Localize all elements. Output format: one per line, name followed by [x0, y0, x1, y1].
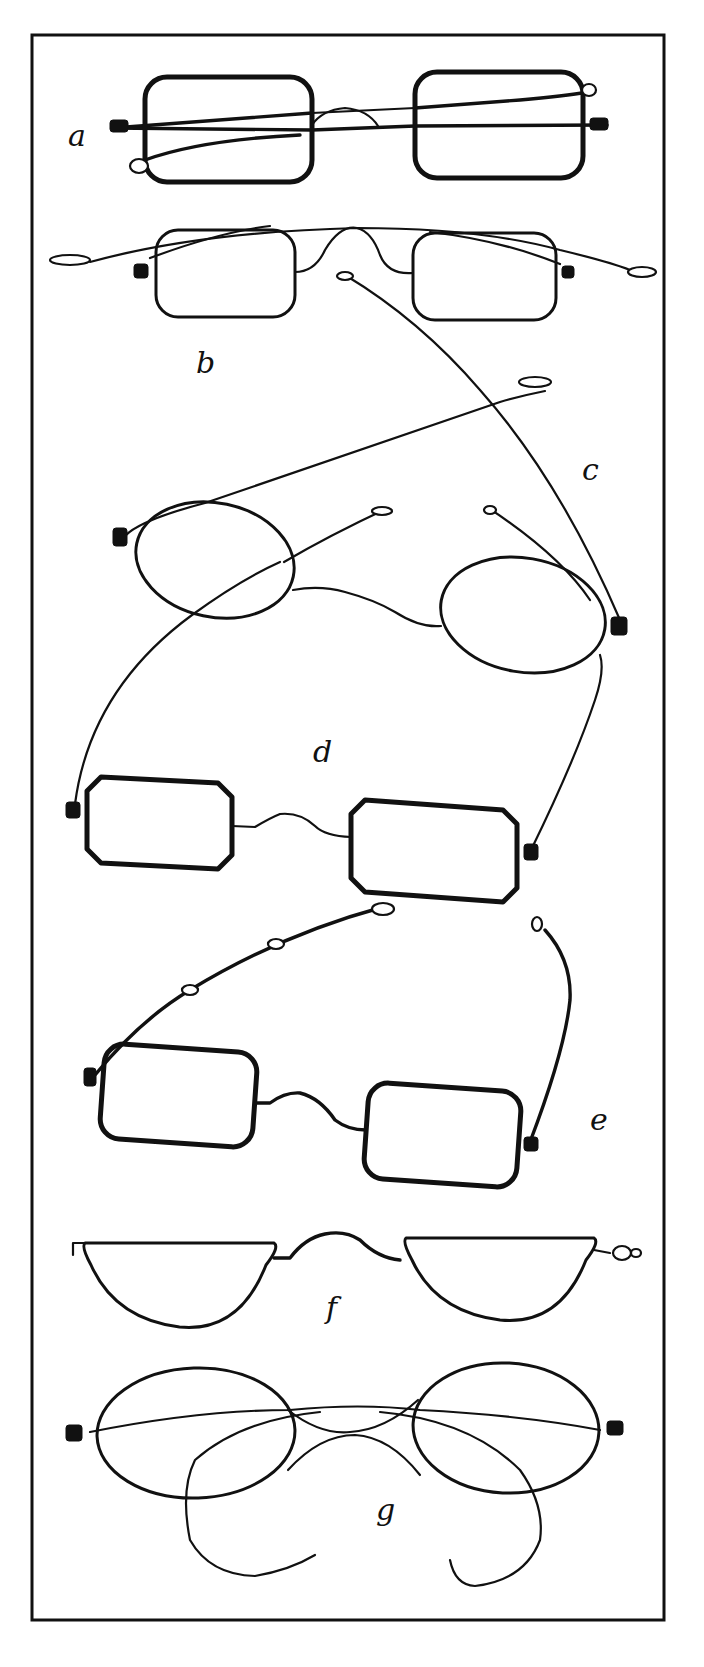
- temple-wire: [145, 135, 300, 160]
- left-lens-rim: [95, 1365, 297, 1502]
- spectacles-b: [50, 226, 656, 320]
- hinge: [134, 264, 148, 278]
- temple-loop: [337, 272, 353, 280]
- temple-wire: [288, 1400, 418, 1432]
- temple-wire: [531, 655, 602, 850]
- right-lens-rim: [405, 1238, 596, 1321]
- spectacles-plate: a b c d e f g: [0, 0, 704, 1667]
- spectacles-c: [113, 272, 627, 686]
- temple-wire: [293, 588, 441, 626]
- label-f: f: [324, 1290, 342, 1325]
- spectacles-e: [84, 903, 570, 1188]
- temple-wire: [125, 391, 545, 536]
- temple-wire: [380, 1412, 541, 1586]
- hinge: [66, 1425, 82, 1441]
- temple-loop: [484, 506, 496, 514]
- temple-wire: [530, 930, 570, 1142]
- temple-loop: [50, 255, 90, 265]
- labels-layer: a b c d e f g: [68, 118, 608, 1527]
- temple-wire: [232, 814, 351, 837]
- temple-wire: [75, 562, 280, 804]
- right-lens-rim: [363, 1082, 522, 1188]
- temple-wire: [487, 507, 590, 600]
- hinge: [113, 528, 127, 546]
- hinge: [84, 1068, 96, 1086]
- hinge: [524, 1137, 538, 1151]
- right-lens-rim: [413, 233, 556, 320]
- hinge: [66, 802, 80, 818]
- temple-wire: [594, 1250, 610, 1253]
- hinge: [611, 617, 627, 635]
- label-d: d: [313, 734, 332, 769]
- temple-wire: [284, 508, 388, 562]
- spectacles-layer: [50, 72, 656, 1586]
- hinge: [590, 118, 608, 130]
- temple-loop: [519, 377, 551, 387]
- temple-loop: [130, 159, 148, 173]
- temple-loop: [532, 917, 542, 931]
- temple-wire: [295, 228, 413, 274]
- temple-wire: [90, 1407, 600, 1433]
- temple-loop: [372, 903, 394, 915]
- temple-loop: [372, 507, 392, 515]
- temple-loop: [613, 1246, 631, 1260]
- right-lens-rim: [431, 544, 614, 685]
- hinge: [607, 1421, 623, 1435]
- right-lens-rim: [351, 800, 517, 902]
- label-e: e: [590, 1102, 608, 1137]
- left-lens-rim: [84, 1243, 276, 1327]
- temple-wire: [274, 1233, 400, 1260]
- temple-loop: [628, 267, 656, 277]
- spectacles-g: [66, 1358, 623, 1586]
- label-b: b: [196, 345, 215, 380]
- temple-loop: [582, 84, 596, 96]
- temple-wire: [113, 125, 607, 130]
- left-lens-rim: [99, 1043, 258, 1148]
- hinge: [524, 844, 538, 860]
- temple-loop: [631, 1249, 641, 1257]
- temple-loop: [182, 985, 198, 995]
- spectacles-f: [73, 1233, 641, 1328]
- temple-wire: [186, 1412, 320, 1576]
- temple-wire: [415, 92, 588, 108]
- label-g: g: [376, 1492, 395, 1527]
- temple-wire: [345, 275, 620, 620]
- temple-wire: [288, 1435, 420, 1475]
- spectacles-a: [110, 72, 608, 182]
- hinge: [110, 120, 128, 132]
- temple-loop: [268, 939, 284, 949]
- left-lens-rim: [87, 777, 232, 869]
- temple-wire: [90, 228, 630, 270]
- label-c: c: [582, 452, 599, 487]
- right-lens-rim: [410, 1358, 603, 1498]
- left-lens-rim: [125, 488, 305, 633]
- label-a: a: [68, 118, 86, 153]
- temple-wire: [255, 1093, 366, 1130]
- spectacles-d: [66, 562, 602, 902]
- hinge: [562, 266, 574, 278]
